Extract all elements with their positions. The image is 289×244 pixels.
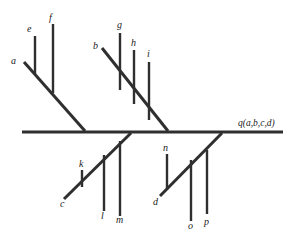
label-a: a bbox=[11, 55, 16, 66]
label-i: i bbox=[147, 48, 150, 59]
label-p: p bbox=[203, 216, 209, 227]
label-n: n bbox=[163, 142, 168, 153]
label-root-expression: q(a,b,c,d) bbox=[238, 118, 275, 129]
label-g: g bbox=[117, 19, 122, 30]
label-m: m bbox=[116, 214, 123, 225]
label-f: f bbox=[49, 12, 53, 23]
label-h: h bbox=[131, 37, 136, 48]
diagram-canvas: a e f b g h i c k l m d n o p q(a,b,c,d) bbox=[0, 0, 289, 244]
label-l: l bbox=[101, 210, 104, 221]
label-k: k bbox=[79, 158, 84, 169]
label-d: d bbox=[153, 196, 159, 207]
label-c: c bbox=[60, 198, 65, 209]
branch-a bbox=[24, 62, 85, 131]
tree-diagram: a e f b g h i c k l m d n o p q(a,b,c,d) bbox=[0, 0, 289, 244]
label-o: o bbox=[188, 220, 193, 231]
label-e: e bbox=[27, 23, 32, 34]
label-b: b bbox=[93, 40, 98, 51]
